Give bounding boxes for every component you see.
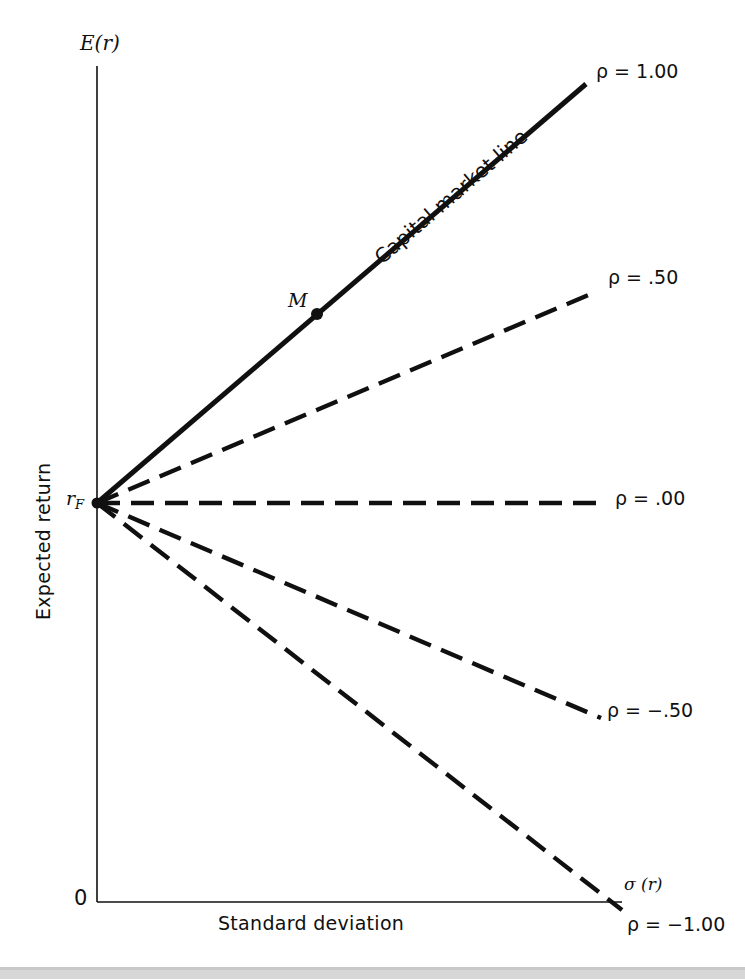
series-line-rho-minus-0.50 [97,503,601,718]
capital-market-line-figure: E(r) σ (r) 0 Expected return Standard de… [0,0,745,979]
series-label-rho-minus-1.00: ρ = −1.00 [627,915,725,934]
page-edge-band [0,967,745,979]
market-portfolio-label: M [288,291,307,310]
risk-free-symbol: r [66,487,75,509]
risk-free-subscript: F [75,497,84,512]
y-axis-title: Expected return [34,463,53,620]
series-label-rho-0.50: ρ = .50 [608,268,678,287]
series-label-rho-0.00: ρ = .00 [615,489,685,508]
series-line-rho-minus-1.00 [97,503,622,910]
x-axis-symbol-label: σ (r) [624,876,662,893]
page-edge-shade [0,967,745,970]
axis-origin-label: 0 [74,888,87,909]
risk-free-rate-label: rF [66,489,84,511]
market-portfolio-point [311,308,323,320]
series-label-rho-minus-0.50: ρ = −.50 [607,701,693,720]
y-axis-symbol-label: E(r) [80,33,120,53]
series-line-rho-0.50 [97,291,598,503]
risk-free-origin-point [92,498,103,509]
x-axis-title: Standard deviation [218,914,404,933]
series-label-rho-1.00: ρ = 1.00 [596,62,678,81]
